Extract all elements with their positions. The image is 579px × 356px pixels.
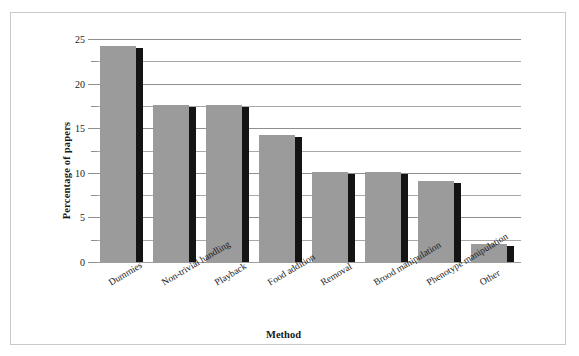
bar-shadow (401, 174, 408, 262)
y-axis-tick (88, 39, 97, 40)
y-axis-tick (88, 84, 97, 85)
bar-shadow (454, 183, 461, 262)
bar-shadow (507, 246, 514, 262)
x-axis-tick-label: Playback (213, 261, 248, 288)
y-axis-tick-label: 10 (75, 167, 85, 178)
bar-body (153, 105, 189, 262)
figure-frame: 0510152025 Percentage of papers Method D… (10, 12, 566, 345)
plot-area: 0510152025 (97, 39, 521, 262)
bar (206, 39, 252, 262)
bar (365, 39, 411, 262)
y-axis-tick (88, 173, 97, 174)
y-axis-tick (88, 217, 97, 218)
bar-body (312, 172, 348, 262)
bar-series (97, 39, 521, 262)
bar-shadow (136, 48, 143, 262)
bar-body (259, 135, 295, 262)
bar-shadow (242, 107, 249, 262)
bar-shadow (348, 174, 355, 262)
bar-body (100, 46, 136, 262)
bar (259, 39, 305, 262)
bar (418, 39, 464, 262)
bar (471, 39, 517, 262)
y-axis-tick-label: 0 (80, 257, 85, 268)
bar (312, 39, 358, 262)
bar-body (365, 172, 401, 262)
y-axis-tick-label: 20 (75, 78, 85, 89)
y-axis-tick-label: 25 (75, 34, 85, 45)
bar-shadow (295, 137, 302, 262)
y-axis-tick (88, 262, 97, 263)
bar (153, 39, 199, 262)
bar (100, 39, 146, 262)
bar-body (206, 105, 242, 262)
y-axis-tick-label: 5 (80, 212, 85, 223)
y-axis-label-text: Percentage of papers (62, 121, 73, 219)
bar-shadow (189, 107, 196, 262)
x-axis-tick-label: Other (478, 268, 502, 288)
y-axis-tick (88, 128, 97, 129)
x-axis-tick-label: Dummies (107, 260, 144, 288)
y-axis-tick-label: 15 (75, 123, 85, 134)
x-axis-tick-label: Removal (319, 261, 354, 287)
y-axis-label: Percentage of papers (59, 85, 75, 255)
x-axis-label: Method (266, 329, 301, 340)
